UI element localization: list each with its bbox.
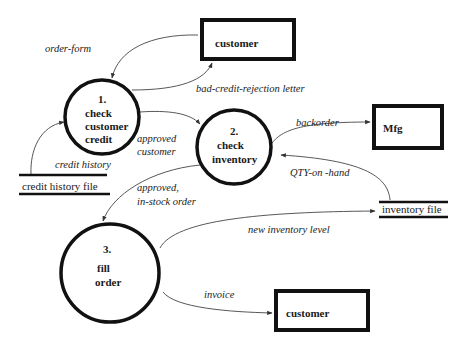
flow-qty-on-hand: QTY-on -hand	[281, 155, 390, 200]
entity-customer-bottom: customer	[276, 291, 368, 330]
flow-label-instock-line1: approved,	[137, 182, 179, 193]
flow-backorder: backorder	[270, 117, 370, 146]
flow-order-form: order-form	[45, 35, 198, 78]
process-2-line1: check	[217, 139, 245, 151]
flow-approved-in-stock-order: approved, in-stock order	[103, 165, 200, 221]
process-3-line1: fill	[97, 262, 110, 274]
data-flow-diagram: order-form bad-credit-rejection letter c…	[0, 0, 464, 349]
store-credit-history-file: credit history file	[19, 175, 110, 194]
process-1-line3: credit	[85, 133, 113, 145]
flow-label-new-inventory-level: new inventory level	[248, 224, 330, 235]
process-check-inventory: 2. check inventory	[197, 110, 271, 184]
process-1-number: 1.	[98, 93, 107, 105]
store-credit-history-label: credit history file	[22, 180, 98, 192]
flow-approved-customer: approved customer	[137, 111, 200, 157]
flow-label-order-form: order-form	[45, 43, 91, 54]
flow-label-credit-history: credit history	[55, 159, 111, 170]
entity-customer-bottom-label: customer	[286, 307, 329, 319]
process-3-number: 3.	[103, 243, 112, 255]
entity-mfg-label: Mfg	[383, 122, 403, 134]
process-check-customer-credit: 1. check customer credit	[65, 80, 139, 154]
flow-label-instock-line2: in-stock order	[137, 196, 197, 207]
entity-customer-top: customer	[202, 20, 294, 59]
store-inventory-file: inventory file	[379, 202, 448, 217]
flow-label-qty-on-hand: QTY-on -hand	[290, 167, 350, 178]
flow-label-approved-line1: approved	[137, 133, 177, 144]
process-2-line2: inventory	[212, 153, 258, 165]
flow-label-approved-line2: customer	[137, 146, 176, 157]
process-2-number: 2.	[230, 125, 239, 137]
flow-label-invoice: invoice	[204, 289, 235, 300]
process-1-line1: check	[85, 107, 113, 119]
flow-bad-credit-rejection-letter: bad-credit-rejection letter	[132, 63, 305, 94]
flow-invoice: invoice	[163, 289, 272, 313]
process-3-line2: order	[95, 276, 121, 288]
process-fill-order: 3. fill order	[61, 224, 159, 322]
entity-mfg: Mfg	[374, 106, 442, 148]
entity-customer-top-label: customer	[215, 37, 258, 49]
store-inventory-label: inventory file	[382, 203, 442, 215]
flow-label-backorder: backorder	[296, 117, 340, 128]
process-1-line2: customer	[85, 120, 128, 132]
flow-new-inventory-level: new inventory level	[160, 211, 375, 248]
flow-label-bad-credit: bad-credit-rejection letter	[196, 83, 305, 94]
